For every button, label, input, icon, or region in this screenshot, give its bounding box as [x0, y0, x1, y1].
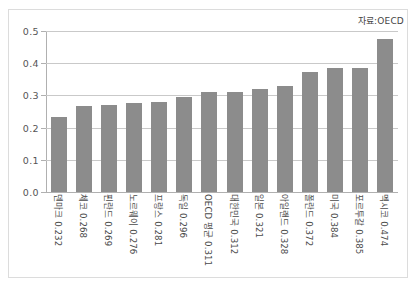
x-axis-tick-label: 미국 0.384 — [327, 194, 343, 282]
plot-area — [46, 31, 398, 192]
x-axis-tick-label-text: 포르투갈 0.385 — [354, 194, 366, 254]
x-axis-tick-label-text: 덴마크 0.232 — [53, 194, 65, 246]
bar — [176, 97, 192, 192]
bar — [201, 92, 217, 192]
gridline — [46, 128, 398, 129]
bar — [302, 72, 318, 192]
x-axis-tick-label-text: 노르웨이 0.276 — [128, 194, 140, 254]
gridline — [46, 95, 398, 96]
y-axis-tick-mark — [41, 95, 46, 96]
x-axis-tick-label-text: 체코 0.268 — [78, 194, 90, 238]
bar — [51, 117, 67, 192]
bar — [377, 39, 393, 192]
y-axis-tick-label: 0.5 — [3, 26, 39, 37]
bar — [227, 92, 243, 192]
gridline — [46, 63, 398, 64]
bar — [352, 68, 368, 192]
x-axis-tick-label: 멕시코 0.474 — [377, 194, 393, 282]
x-axis-tick-label: 독일 0.296 — [176, 194, 192, 282]
x-axis-tick-label: 폴란드 0.372 — [302, 194, 318, 282]
gridline — [46, 160, 398, 161]
gridline — [46, 192, 398, 193]
chart-figure: 자료:OECD 0.50.40.30.20.10.0 덴마크 0.232체코 0… — [0, 0, 418, 289]
bar — [101, 105, 117, 192]
bar — [76, 106, 92, 192]
source-annotation: 자료:OECD — [358, 14, 404, 27]
x-axis-tick-label-text: 아일랜드 0.328 — [279, 194, 291, 254]
x-axis-tick-label: 포르투갈 0.385 — [352, 194, 368, 282]
y-axis-tick-label: 0.2 — [3, 122, 39, 133]
y-axis-tick-label: 0.1 — [3, 154, 39, 165]
y-axis-tick-mark — [41, 63, 46, 64]
x-axis-tick-label-text: 대한민국 0.312 — [229, 194, 241, 254]
bar — [277, 86, 293, 192]
x-axis-tick-label: 아일랜드 0.328 — [277, 194, 293, 282]
x-axis-tick-label-text: 폴란드 0.372 — [304, 194, 316, 246]
bar — [126, 103, 142, 192]
x-axis-tick-label: OECD 평균 0.311 — [201, 194, 217, 282]
y-axis-tick-label: 0.4 — [3, 58, 39, 69]
gridline — [46, 31, 398, 32]
bar — [327, 68, 343, 192]
x-axis-tick-label-text: 프랑스 0.281 — [153, 194, 165, 246]
x-axis-tick-label-text: 독일 0.296 — [178, 194, 190, 238]
x-axis-tick-label: 프랑스 0.281 — [151, 194, 167, 282]
y-axis-tick-mark — [41, 31, 46, 32]
y-axis-tick-mark — [41, 128, 46, 129]
x-axis-tick-label: 덴마크 0.232 — [51, 194, 67, 282]
x-axis-tick-label: 노르웨이 0.276 — [126, 194, 142, 282]
y-axis-tick-mark — [41, 192, 46, 193]
x-axis-tick-label-text: 미국 0.384 — [329, 194, 341, 238]
x-axis-tick-labels: 덴마크 0.232체코 0.268핀란드 0.269노르웨이 0.276프랑스 … — [46, 194, 398, 286]
y-axis-tick-labels: 0.50.40.30.20.10.0 — [0, 0, 39, 289]
y-axis-tick-label: 0.0 — [3, 187, 39, 198]
y-axis-tick-mark — [41, 160, 46, 161]
x-axis-tick-label-text: 일본 0.321 — [254, 194, 266, 238]
x-axis-tick-label-text: OECD 평균 0.311 — [203, 194, 215, 266]
bar — [252, 89, 268, 192]
x-axis-tick-label-text: 핀란드 0.269 — [103, 194, 115, 246]
x-axis-tick-label: 체코 0.268 — [76, 194, 92, 282]
x-axis-tick-label: 핀란드 0.269 — [101, 194, 117, 282]
bar — [151, 102, 167, 192]
x-axis-tick-label: 일본 0.321 — [252, 194, 268, 282]
x-axis-tick-label: 대한민국 0.312 — [227, 194, 243, 282]
y-axis-tick-label: 0.3 — [3, 90, 39, 101]
x-axis-tick-label-text: 멕시코 0.474 — [379, 194, 391, 246]
